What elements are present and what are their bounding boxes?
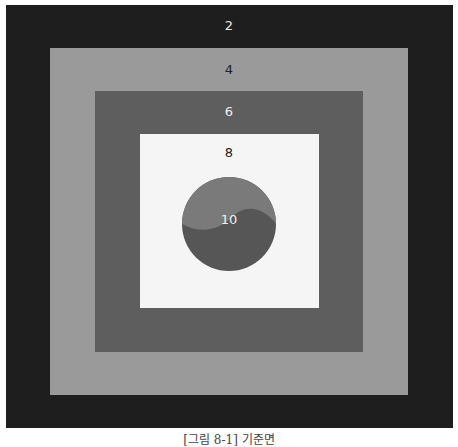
level-2-label: 2 — [209, 18, 249, 34]
level-8-label: 8 — [209, 145, 249, 161]
figure-caption: [그림 8-1] 기준면 — [0, 433, 458, 447]
level-4-label: 4 — [209, 62, 249, 78]
level-10-label: 10 — [209, 212, 249, 228]
level-6-label: 6 — [209, 104, 249, 120]
